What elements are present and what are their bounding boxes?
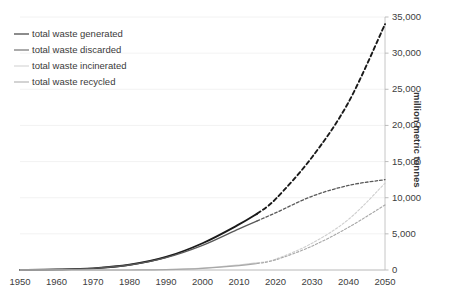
legend-item-total-waste-incinerated: total waste incinerated (14, 58, 164, 74)
x-axis-tick: 1990 (146, 276, 186, 287)
legend-line-icon (14, 45, 29, 55)
legend-line-icon (14, 77, 29, 87)
y-axis-tick: 35,000 (392, 12, 436, 22)
legend-item-label: total waste incinerated (32, 61, 127, 71)
chart-legend: total waste generated total waste discar… (14, 26, 164, 90)
legend-item-total-waste-recycled: total waste recycled (14, 74, 164, 90)
x-axis-tick: 1980 (110, 276, 150, 287)
y-axis-title: million metric tonnes (412, 92, 423, 212)
y-axis-tick: 0 (392, 265, 436, 275)
x-axis-tick: 1970 (73, 276, 113, 287)
x-axis-tick: 2030 (292, 276, 332, 287)
y-axis-tick: 30,000 (392, 48, 436, 58)
x-axis-tick: 2020 (256, 276, 296, 287)
x-axis-tick: 2010 (219, 276, 259, 287)
x-axis-tick: 2000 (183, 276, 223, 287)
x-axis-tick: 1960 (37, 276, 77, 287)
legend-item-total-waste-generated: total waste generated (14, 26, 164, 42)
x-axis-tick: 2040 (329, 276, 369, 287)
axis-lines (385, 17, 389, 270)
legend-item-label: total waste generated (32, 29, 123, 39)
y-axis-tick: 5,000 (392, 229, 436, 239)
legend-item-total-waste-discarded: total waste discarded (14, 42, 164, 58)
x-axis-tick: 2050 (365, 276, 405, 287)
legend-line-icon (14, 29, 29, 39)
legend-line-icon (14, 61, 29, 71)
legend-item-label: total waste recycled (32, 77, 115, 87)
legend-item-label: total waste discarded (32, 45, 121, 55)
x-axis-tick: 1950 (0, 276, 40, 287)
waste-projection-chart: total waste generated total waste discar… (0, 0, 460, 302)
